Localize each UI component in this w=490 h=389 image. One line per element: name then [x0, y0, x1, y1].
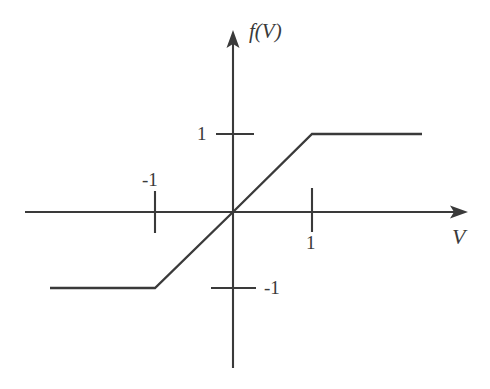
x-tick-label-positive-one: 1	[306, 233, 316, 252]
y-tick-label-positive-one: 1	[197, 124, 207, 143]
x-tick-label-negative-one: -1	[142, 170, 158, 189]
y-axis-label: f(V)	[249, 21, 282, 42]
saturating-linear-function-figure: f(V) V 1 -1 -1 1	[0, 0, 490, 389]
y-tick-label-negative-one: -1	[264, 278, 280, 297]
plot-canvas	[0, 0, 490, 389]
x-axis-label: V	[452, 226, 465, 248]
